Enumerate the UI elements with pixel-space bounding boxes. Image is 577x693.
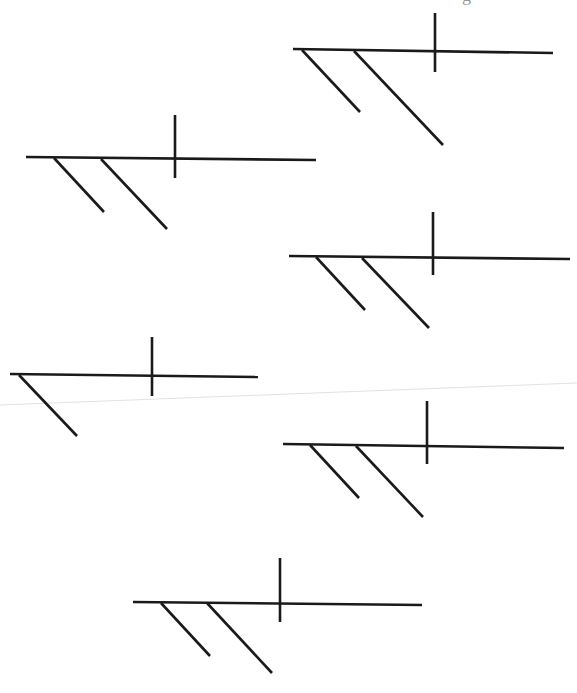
diagram-layer bbox=[10, 13, 570, 673]
diagram-3 bbox=[289, 212, 570, 328]
modifier-slant bbox=[54, 158, 104, 212]
modifier-slant bbox=[356, 446, 423, 517]
modifier-slant bbox=[362, 258, 429, 328]
baseline bbox=[10, 374, 258, 377]
modifier-slant bbox=[354, 51, 443, 145]
baseline bbox=[293, 49, 553, 53]
modifier-slant bbox=[302, 50, 360, 112]
baseline bbox=[26, 157, 316, 160]
sentence-diagram-canvas bbox=[0, 0, 577, 693]
diagram-2 bbox=[26, 115, 316, 229]
baseline bbox=[283, 444, 564, 448]
diagram-5 bbox=[283, 401, 564, 517]
modifier-slant bbox=[316, 257, 365, 310]
diagram-4 bbox=[10, 337, 258, 436]
modifier-slant bbox=[19, 375, 77, 436]
baseline bbox=[289, 256, 570, 259]
modifier-slant bbox=[207, 603, 272, 673]
modifier-slant bbox=[310, 445, 359, 498]
diagram-1 bbox=[293, 13, 553, 145]
faint-scan-line bbox=[0, 383, 577, 405]
diagram-6 bbox=[133, 558, 422, 673]
modifier-slant bbox=[101, 159, 167, 229]
baseline bbox=[133, 602, 422, 605]
modifier-slant bbox=[161, 603, 210, 656]
